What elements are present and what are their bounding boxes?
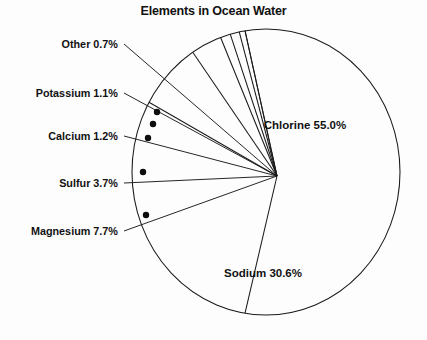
slice-label-chlorine: Chlorine 55.0% [264, 119, 346, 131]
leader-dot-potassium [150, 121, 156, 127]
slice-label-sulfur: Sulfur 3.7% [59, 177, 118, 189]
pie-chart-figure: Elements in Ocean Water Chlorine 55.0%So… [0, 0, 427, 340]
leader-dot-calcium [145, 135, 151, 141]
slice-label-sodium: Sodium 30.6% [224, 267, 302, 279]
pie-sector-divider [245, 31, 277, 176]
pie-sector-divider [245, 176, 277, 313]
leader-dot-other [154, 109, 160, 115]
slice-callout-labels: Magnesium 7.7%Sulfur 3.7%Calcium 1.2%Pot… [31, 38, 118, 237]
leader-dot-magnesium [143, 212, 149, 218]
pie-chart-canvas: Chlorine 55.0%Sodium 30.6% Magnesium 7.7… [0, 0, 427, 340]
slice-label-other: Other 0.7% [62, 38, 119, 50]
slice-label-magnesium: Magnesium 7.7% [31, 225, 118, 237]
leader-dot-sulfur [140, 169, 146, 175]
slice-label-calcium: Calcium 1.2% [48, 130, 118, 142]
pie-sector-divider [149, 102, 277, 176]
pie-sector-divider [239, 32, 277, 176]
pie-sector-divider [221, 37, 277, 176]
callout-leader-dots [140, 109, 160, 218]
slice-inside-labels: Chlorine 55.0%Sodium 30.6% [224, 119, 346, 279]
leader-line-magnesium [124, 176, 277, 231]
leader-line-sulfur [124, 176, 277, 183]
slice-label-potassium: Potassium 1.1% [36, 87, 118, 99]
